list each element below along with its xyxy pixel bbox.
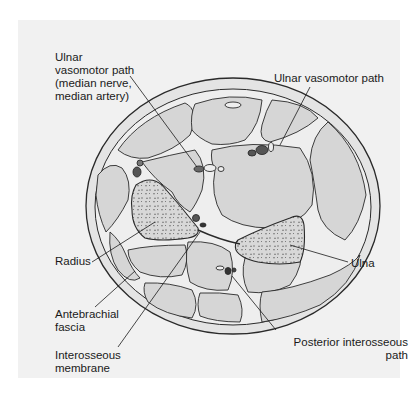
- label-radius: Radius: [55, 255, 91, 268]
- label-posterior-interosseous-path: Posterior interosseous path: [270, 336, 408, 362]
- label-ulnar-vasomotor-path: Ulnar vasomotor path: [274, 72, 384, 85]
- label-interosseous-membrane: Interosseous membrane: [55, 349, 121, 375]
- label-antebrachial-fascia: Antebrachial fascia: [55, 308, 119, 334]
- label-ulna: Ulna: [351, 257, 375, 270]
- label-ulnar-vasomotor-path-median: Ulnar vasomotor path (median nerve, medi…: [55, 51, 134, 103]
